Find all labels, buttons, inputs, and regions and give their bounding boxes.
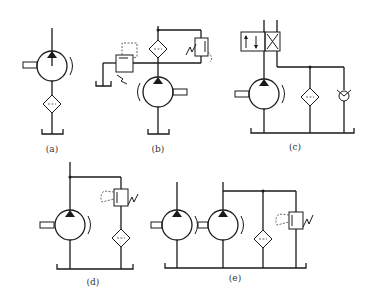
caption-c: (c) [289,142,301,152]
tank-icon [251,128,354,133]
filter-icon [254,230,272,248]
panel-d: (d) [40,162,138,287]
panel-a: (a) [23,28,73,154]
filter-icon [149,40,167,58]
hydraulic-circuit-diagram: (a) (b) [0,0,376,299]
filter-icon [301,88,319,106]
relief-valve-icon [195,38,208,56]
directional-valve-icon [241,32,265,51]
filter-icon [43,95,61,113]
relief-valve-icon [114,189,128,206]
tank-icon [165,263,306,268]
caption-a: (a) [46,144,58,154]
caption-b: (b) [152,144,165,154]
panel-e: (e) [151,182,313,283]
filter-icon [112,229,130,247]
panel-c: (c) [235,20,354,152]
caption-d: (d) [87,277,100,287]
panel-b: (b) [96,26,212,154]
relief-valve-icon [289,212,303,229]
caption-e: (e) [229,273,241,283]
